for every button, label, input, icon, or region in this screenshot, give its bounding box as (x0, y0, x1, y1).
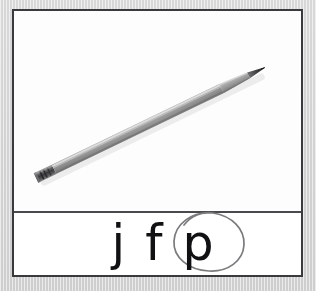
letter-options-row: j f p (14, 213, 301, 275)
pencil-photo (14, 11, 301, 211)
worksheet-card: j f p (12, 9, 303, 277)
letter-option-3[interactable]: p (182, 219, 213, 268)
picture-panel (14, 11, 301, 211)
letters-panel: j f p (14, 213, 301, 275)
letter-option-1[interactable]: j (112, 219, 126, 268)
letter-option-2[interactable]: f (145, 219, 162, 268)
